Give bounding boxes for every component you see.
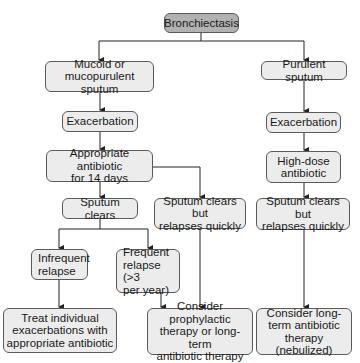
node-label-line: term antibiotic: [268, 319, 340, 331]
node-label-line: Consider long-: [267, 307, 342, 319]
node-mucoid-sputum: Mucoid ormucopurulent sputum: [45, 61, 154, 92]
node-consider-long-term: Consider long-term antibiotictherapy (ne…: [256, 308, 352, 355]
node-label-line: relapse (>3: [123, 259, 161, 284]
node-label: Sputum clears: [65, 196, 135, 221]
node-label-line: Sputum clears but: [163, 195, 237, 220]
node-label-line: therapy or long-term: [160, 325, 241, 350]
node-frequent-relapse: Frequentrelapse (>3per year): [116, 249, 180, 293]
node-relapses-quickly-right: Sputum clears butrelapses quickly: [256, 198, 350, 230]
node-label-line: exacerbations with: [12, 324, 107, 336]
node-label-line: mucopurulent sputum: [65, 70, 135, 95]
node-label-line: Frequent: [123, 246, 169, 258]
node-label-line: relapse: [38, 265, 76, 277]
node-bronchiectasis: Bronchiectasis: [164, 13, 239, 33]
node-label-line: Infrequent: [38, 252, 90, 264]
node-label-line: Mucoid or: [74, 58, 125, 70]
node-label-line: Consider prophylactic: [169, 300, 230, 325]
node-label-line: per year): [123, 284, 169, 296]
node-label-line: Sputum clears but: [266, 195, 340, 220]
node-label-line: antibiotic: [281, 167, 326, 179]
node-exacerbation-right: Exacerbation: [266, 112, 341, 133]
node-high-dose-antibiotic: High-doseantibiotic: [266, 151, 341, 183]
node-label-line: therapy (nebulized): [276, 332, 333, 357]
node-label: Exacerbation: [270, 116, 337, 129]
node-relapses-quickly-middle: Sputum clears butrelapses quickly: [154, 198, 246, 229]
node-label-line: High-dose: [277, 155, 329, 167]
node-infrequent-relapse: Infrequentrelapse: [31, 249, 88, 280]
node-label-line: antibiotic therapy: [157, 350, 244, 362]
node-label-line: Treat individual: [21, 312, 99, 324]
node-label: Bronchiectasis: [164, 17, 239, 30]
node-appropriate-antibiotic: Appropriate antibioticfor 14 days: [46, 150, 153, 182]
node-consider-prophylactic: Consider prophylactictherapy or long-ter…: [147, 308, 253, 355]
node-label: Exacerbation: [66, 115, 133, 128]
node-sputum-clears: Sputum clears: [62, 198, 138, 219]
node-label-line: Appropriate antibiotic: [70, 147, 129, 172]
node-purulent-sputum: Purulent sputum: [261, 61, 347, 80]
node-label-line: appropriate antibiotic: [7, 337, 114, 349]
node-label-line: relapses quickly: [159, 220, 241, 232]
node-label-line: relapses quickly: [262, 220, 344, 232]
node-label: Purulent sputum: [264, 58, 344, 83]
node-treat-individual: Treat individualexacerbations withapprop…: [3, 308, 117, 353]
node-exacerbation-left: Exacerbation: [62, 111, 138, 132]
node-label-line: for 14 days: [71, 172, 128, 184]
